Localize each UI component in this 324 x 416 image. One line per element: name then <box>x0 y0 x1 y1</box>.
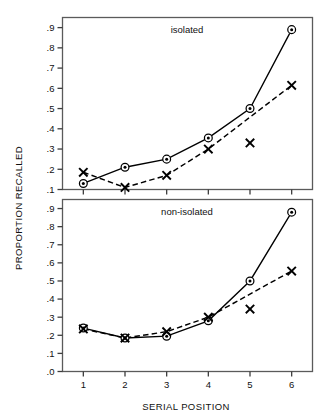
data-point-circle-solid <box>246 277 254 285</box>
x-tick-label: 6 <box>289 379 294 390</box>
panel-isolated: isolated .1.2.3.4.5.6.7.8.9 <box>47 18 313 195</box>
data-point-x-dashed <box>287 267 295 275</box>
y-tick-label: .6 <box>47 83 55 94</box>
x-tick-label: 3 <box>164 379 169 390</box>
y-tick-label: .7 <box>47 239 55 250</box>
y-tick-label: .2 <box>47 164 55 175</box>
data-point-circle-solid <box>204 134 212 142</box>
y-tick-label: .4 <box>47 123 55 134</box>
data-point-circle-solid <box>163 155 171 163</box>
y-tick-label: .9 <box>47 22 55 33</box>
panel-non-isolated-data-markers <box>79 208 296 342</box>
panel-non-isolated-frame <box>63 200 313 372</box>
x-tick-label: 1 <box>81 379 86 390</box>
data-point-x-dashed <box>79 168 87 176</box>
data-point-circle-solid <box>246 105 254 113</box>
series-line-circle-solid <box>83 30 291 184</box>
data-point-circle-solid <box>79 180 87 188</box>
data-point-x-dashed <box>162 171 170 179</box>
data-point-circle-solid <box>288 208 296 216</box>
data-point-circle-solid <box>288 26 296 34</box>
series-line-x-dashed <box>83 85 291 187</box>
y-tick-label: .0 <box>47 366 55 377</box>
data-point-unconnected-x <box>246 305 254 313</box>
panel-non-isolated-x-ticks: 123456 <box>81 372 295 390</box>
x-tick-label: 5 <box>247 379 252 390</box>
panel-isolated-x-ticks <box>83 190 291 195</box>
y-tick-label: .3 <box>47 143 55 154</box>
x-tick-label: 2 <box>122 379 127 390</box>
y-tick-label: .8 <box>47 42 55 53</box>
y-tick-label: .5 <box>47 103 55 114</box>
panel-non-isolated-series-lines <box>83 212 291 338</box>
y-tick-label: .1 <box>47 184 55 195</box>
y-tick-label: .3 <box>47 312 55 323</box>
figure-container: PROPORTION RECALLED SERIAL POSITION isol… <box>0 0 324 416</box>
data-point-x-dashed <box>287 81 295 89</box>
panel-isolated-series-lines <box>83 30 291 188</box>
panel-isolated-y-ticks: .1.2.3.4.5.6.7.8.9 <box>47 22 63 195</box>
y-tick-label: .5 <box>47 275 55 286</box>
x-tick-label: 4 <box>206 379 211 390</box>
y-tick-label: .6 <box>47 257 55 268</box>
series-line-circle-solid <box>83 212 291 338</box>
y-tick-label: .1 <box>47 348 55 359</box>
panel-isolated-data-markers <box>79 26 296 192</box>
panel-isolated-title: isolated <box>171 24 204 35</box>
panel-non-isolated: non-isolated .0.1.2.3.4.5.6.7.8.9 123456 <box>47 200 313 390</box>
y-tick-label: .4 <box>47 293 55 304</box>
data-point-x-dashed <box>204 145 212 153</box>
y-tick-label: .2 <box>47 330 55 341</box>
panel-isolated-frame <box>63 18 313 190</box>
x-axis-title: SERIAL POSITION <box>142 401 229 412</box>
y-tick-label: .9 <box>47 203 55 214</box>
y-tick-label: .8 <box>47 221 55 232</box>
panel-non-isolated-title: non-isolated <box>161 206 213 217</box>
serial-position-chart: PROPORTION RECALLED SERIAL POSITION isol… <box>0 0 324 416</box>
data-point-circle-solid <box>121 163 129 171</box>
panel-non-isolated-y-ticks: .0.1.2.3.4.5.6.7.8.9 <box>47 203 63 377</box>
y-tick-label: .7 <box>47 62 55 73</box>
data-point-unconnected-x <box>246 139 254 147</box>
y-axis-title: PROPORTION RECALLED <box>13 146 24 270</box>
